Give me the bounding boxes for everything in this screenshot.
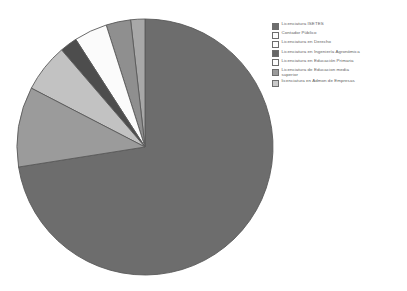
legend-item[interactable]: Licenciatura en Ingeniería Agronómica <box>272 50 405 58</box>
legend-item-label: Contador Público <box>282 31 317 36</box>
legend-item-label: Licenciatura ISETES <box>282 22 324 27</box>
legend-item[interactable]: Licenciatura ISETES <box>272 22 405 30</box>
legend-item-label: licenciatura en Admon de Empresas <box>282 79 355 84</box>
legend-swatch-icon <box>272 59 279 66</box>
legend-item[interactable]: Licenciatura en Derecho <box>272 40 405 48</box>
legend-swatch-icon <box>272 32 279 39</box>
legend-swatch-icon <box>272 23 279 30</box>
legend-item-label: Licenciatura en Ingeniería Agronómica <box>282 50 360 55</box>
legend-item-label: Licenciatura de Educacion media superior <box>282 68 349 78</box>
legend-item[interactable]: Licenciatura en Educación Primaria <box>272 59 405 67</box>
legend-item-label: Licenciatura en Educación Primaria <box>282 59 354 64</box>
legend-swatch-icon <box>272 80 279 87</box>
pie-svg <box>0 0 280 291</box>
legend-swatch-icon <box>272 50 279 57</box>
legend-item[interactable]: Licenciatura de Educacion media superior <box>272 68 405 78</box>
pie-plot-area <box>0 0 280 291</box>
pie-chart-figure: Licenciatura ISETES Contador Público Lic… <box>0 0 407 291</box>
legend-item[interactable]: licenciatura en Admon de Empresas <box>272 79 405 87</box>
legend-swatch-icon <box>272 41 279 48</box>
pie-slice-group <box>17 19 273 275</box>
chart-legend: Licenciatura ISETES Contador Público Lic… <box>272 22 405 88</box>
legend-item-label: Licenciatura en Derecho <box>282 40 332 45</box>
legend-item[interactable]: Contador Público <box>272 31 405 39</box>
legend-swatch-icon <box>272 69 279 76</box>
